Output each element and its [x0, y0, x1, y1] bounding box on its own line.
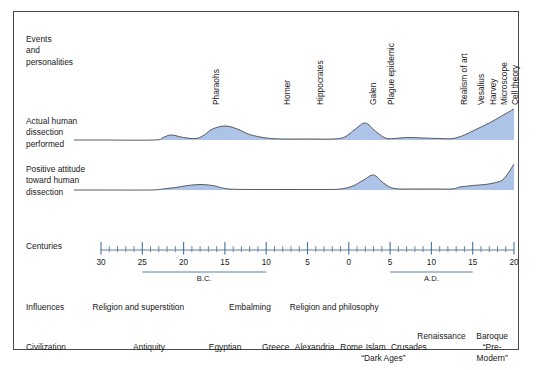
row-label-civilization: Civilization — [26, 342, 66, 353]
civilization-item: Rome — [340, 342, 362, 353]
row-label-influences: Influences — [26, 302, 64, 313]
axis-tick-label: 15 — [463, 258, 483, 267]
axis-tick-label: 10 — [256, 258, 276, 267]
civilization-item: Greece — [262, 342, 289, 353]
civilization-item: Egyptian — [209, 342, 242, 353]
axis-tick-label: 15 — [215, 258, 235, 267]
axis-tick-label: 30 — [91, 258, 111, 267]
axis-tick-label: 0 — [339, 258, 359, 267]
influence-item: Religion and philosophy — [290, 302, 379, 313]
era-label: B.C. — [184, 274, 224, 283]
influence-item: Embalming — [229, 302, 271, 313]
axis-tick-label: 25 — [132, 258, 152, 267]
civilization-item-stacked: Renaissance — [417, 331, 465, 342]
influence-item: Religion and superstition — [92, 302, 184, 313]
axis-tick-label: 5 — [298, 258, 318, 267]
era-label: A.D. — [411, 274, 451, 283]
civilization-item: Crusades — [391, 342, 427, 353]
civilization-item: Alexandria — [295, 342, 335, 353]
civilization-item: Islam — [366, 342, 386, 353]
axis-tick-label: 20 — [504, 258, 524, 267]
timeline-figure: Events and personalities PharaohsHomerHi… — [13, 11, 519, 350]
axis-tick-label: 10 — [421, 258, 441, 267]
civilization-item: Antiquity — [133, 342, 165, 353]
axis-tick-label: 20 — [174, 258, 194, 267]
civilization-item-stacked: Baroque “Pre- Modern” — [476, 331, 508, 364]
centuries-axis — [14, 12, 520, 351]
civilization-item-stacked: “Dark Ages” — [361, 353, 405, 364]
axis-tick-label: 5 — [380, 258, 400, 267]
